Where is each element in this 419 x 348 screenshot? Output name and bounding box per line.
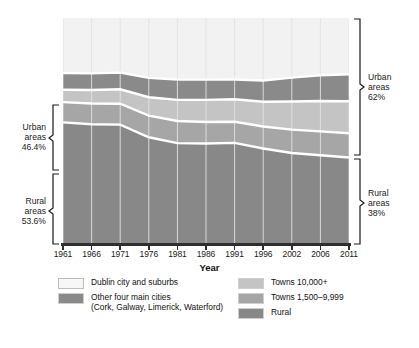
right-urban-annotation: Urban areas 62% bbox=[368, 72, 414, 102]
right-rural-annotation: Rural areas 38% bbox=[368, 188, 414, 218]
legend-column-right: Towns 10,000+Towns 1,500–9,999Rural bbox=[238, 277, 398, 322]
right-rural-line1: Rural bbox=[368, 188, 414, 198]
right-urban-line1: Urban bbox=[368, 72, 414, 82]
left-rural-line2: areas bbox=[4, 206, 46, 216]
legend-label: Towns 10,000+ bbox=[271, 277, 328, 287]
legend-label: Other four main cities bbox=[91, 292, 223, 302]
legend-label: Towns 1,500–9,999 bbox=[271, 292, 344, 302]
legend: Dublin city and suburbsOther four main c… bbox=[58, 277, 388, 343]
right-rural-line3: 38% bbox=[368, 208, 414, 218]
right-urban-line2: areas bbox=[368, 82, 414, 92]
legend-label: Dublin city and suburbs bbox=[91, 277, 178, 287]
left-rural-line1: Rural bbox=[4, 196, 46, 206]
legend-sublabel: (Cork, Galway, Limerick, Waterford) bbox=[91, 302, 223, 312]
left-urban-line2: areas bbox=[4, 132, 46, 142]
stacked-area-svg bbox=[63, 18, 349, 243]
legend-item[interactable]: Towns 1,500–9,999 bbox=[238, 292, 398, 304]
legend-swatch bbox=[238, 278, 264, 289]
x-axis-title: Year bbox=[0, 262, 419, 273]
right-brackets bbox=[352, 18, 365, 246]
left-brackets bbox=[48, 104, 61, 246]
left-urban-annotation: Urban areas 46.4% bbox=[4, 122, 46, 152]
x-axis-tick-label: 2011 bbox=[332, 249, 366, 259]
chart-figure: 1961196619711976198119861991199620022006… bbox=[0, 0, 419, 348]
legend-item[interactable]: Dublin city and suburbs bbox=[58, 277, 258, 289]
legend-swatch bbox=[238, 308, 264, 319]
right-rural-line2: areas bbox=[368, 198, 414, 208]
legend-item[interactable]: Rural bbox=[238, 307, 398, 319]
left-urban-line3: 46.4% bbox=[4, 142, 46, 152]
plot-area bbox=[63, 18, 349, 243]
legend-swatch bbox=[58, 293, 84, 304]
left-rural-annotation: Rural areas 53.6% bbox=[4, 196, 46, 226]
legend-column-left: Dublin city and suburbsOther four main c… bbox=[58, 277, 258, 315]
legend-swatch bbox=[238, 293, 264, 304]
legend-item[interactable]: Towns 10,000+ bbox=[238, 277, 398, 289]
legend-label: Rural bbox=[271, 307, 291, 317]
left-rural-line3: 53.6% bbox=[4, 216, 46, 226]
right-urban-line3: 62% bbox=[368, 92, 414, 102]
legend-swatch bbox=[58, 278, 84, 289]
left-urban-line1: Urban bbox=[4, 122, 46, 132]
legend-item[interactable]: Other four main cities(Cork, Galway, Lim… bbox=[58, 292, 258, 312]
